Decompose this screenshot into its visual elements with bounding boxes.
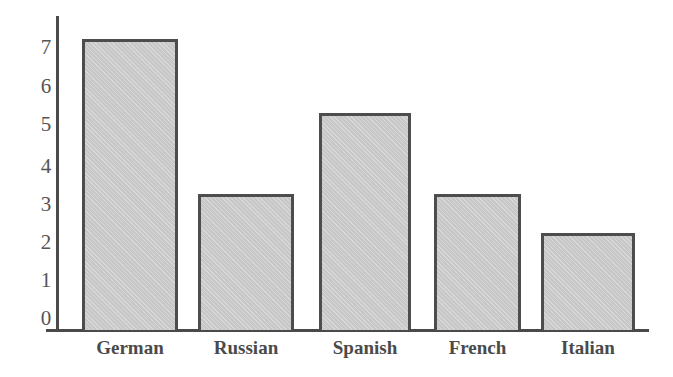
y-tick-label: 0 [36, 307, 56, 329]
y-tick-label: 1 [36, 269, 56, 291]
y-tick-label: 2 [36, 231, 56, 253]
y-axis [56, 16, 59, 332]
x-tick-label: Italian [528, 337, 648, 359]
x-tick-label: Spanish [305, 337, 425, 359]
bar-russian [198, 194, 294, 330]
bar-french [434, 194, 521, 330]
x-tick-label: French [418, 337, 538, 359]
bar-italian [541, 233, 635, 330]
y-tick-label: 4 [36, 155, 56, 177]
y-tick-label: 6 [36, 75, 56, 97]
x-tick-label: Russian [186, 337, 306, 359]
bar-chart: 0 1 2 3 4 5 6 7 GermanRussianSpanishFren… [0, 0, 673, 377]
y-tick-label: 5 [36, 113, 56, 135]
bar-spanish [319, 113, 411, 330]
x-tick-label: German [70, 337, 190, 359]
y-tick-label: 3 [36, 193, 56, 215]
bar-german [82, 39, 178, 330]
y-tick-label: 7 [36, 36, 56, 58]
